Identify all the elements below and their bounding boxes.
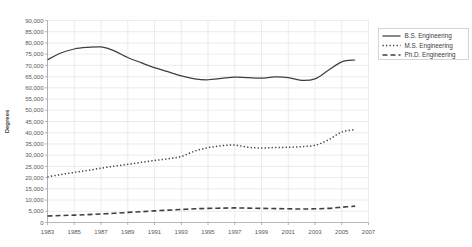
legend-item-label: M.S. Engineering (405, 42, 454, 50)
chart-container: 05,00010,00015,00020,00025,00030,00035,0… (0, 0, 472, 247)
y-axis-tick-label: 5,000 (28, 208, 44, 214)
series-line (48, 47, 356, 81)
chart-legend: B.S. EngineeringM.S. EngineeringPh.D. En… (379, 29, 469, 60)
x-axis-tick-label: 1993 (175, 229, 189, 235)
y-axis-tick-label: 45,000 (25, 119, 44, 125)
y-axis-title: Degrees (4, 109, 10, 133)
legend-item-label: Ph.D. Engineering (405, 51, 457, 59)
x-axis-tick-label: 1995 (201, 229, 215, 235)
y-axis-tick-label: 25,000 (25, 164, 44, 170)
x-axis-tick-label: 1987 (94, 229, 108, 235)
x-axis-tick-label: 1989 (121, 229, 135, 235)
y-axis-tick-label: 60,000 (25, 85, 44, 91)
x-axis-tick-label: 2003 (308, 229, 322, 235)
legend-item-label: B.S. Engineering (405, 32, 453, 40)
y-axis-tick-label: 10,000 (25, 197, 44, 203)
data-series (48, 47, 356, 216)
x-axis-tick-label: 1985 (68, 229, 82, 235)
axes (45, 21, 369, 226)
y-axis-tick-label: 65,000 (25, 74, 44, 80)
x-axis-tick-label: 1999 (255, 229, 269, 235)
x-axis-tick-label: 2001 (282, 229, 296, 235)
y-axis-tick-label: 40,000 (25, 130, 44, 136)
y-axis-tick-label: 0 (40, 220, 44, 226)
y-axis-tick-label: 85,000 (25, 29, 44, 35)
y-axis-tick-label: 15,000 (25, 186, 44, 192)
x-axis-tick-label: 2007 (362, 229, 376, 235)
x-axis-tick-label: 1991 (148, 229, 162, 235)
y-axis-tick-label: 55,000 (25, 96, 44, 102)
x-axis-tick-labels: 1983198519871989199119931995199719992001… (41, 229, 376, 235)
x-axis-tick-label: 1997 (228, 229, 242, 235)
y-axis-tick-label: 35,000 (25, 141, 44, 147)
y-axis-tick-label: 30,000 (25, 152, 44, 158)
y-axis-tick-label: 70,000 (25, 63, 44, 69)
gridlines (48, 21, 369, 223)
y-axis-tick-label: 90,000 (25, 18, 44, 24)
y-axis-tick-labels: 05,00010,00015,00020,00025,00030,00035,0… (25, 18, 44, 226)
series-line (48, 130, 356, 177)
line-chart: 05,00010,00015,00020,00025,00030,00035,0… (0, 0, 472, 247)
x-axis-tick-label: 1983 (41, 229, 55, 235)
y-axis-title-label: Degrees (4, 109, 10, 133)
x-axis-tick-label: 2005 (335, 229, 349, 235)
y-axis-tick-label: 80,000 (25, 40, 44, 46)
y-axis-tick-label: 50,000 (25, 107, 44, 113)
y-axis-tick-label: 20,000 (25, 175, 44, 181)
y-axis-tick-label: 75,000 (25, 51, 44, 57)
